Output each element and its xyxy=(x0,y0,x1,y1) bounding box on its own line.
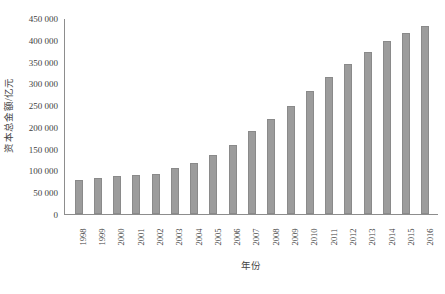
bar-slot xyxy=(397,19,416,214)
bar xyxy=(152,174,160,215)
x-tick-slot: 2007 xyxy=(242,216,261,258)
y-axis-tick-label: 250 000 xyxy=(29,101,58,111)
x-tick-slot: 1998 xyxy=(68,216,87,258)
x-tick-slot: 2001 xyxy=(126,216,145,258)
bar xyxy=(132,175,140,214)
x-tick-slot: 2010 xyxy=(300,216,319,258)
bar-slot xyxy=(319,19,338,214)
x-tick-slot: 2008 xyxy=(261,216,280,258)
bar xyxy=(209,155,217,214)
bar-slot xyxy=(300,19,319,214)
x-axis-tick-label: 2004 xyxy=(194,229,204,246)
bar-chart-figure: 资本总金额/亿元 050 000100 000150 000200 000250… xyxy=(0,0,445,294)
bar-slot xyxy=(223,19,242,214)
x-tick-slot: 2014 xyxy=(377,216,396,258)
bar xyxy=(402,33,410,214)
x-tick-slot: 2013 xyxy=(358,216,377,258)
bar-slot xyxy=(416,19,435,214)
bar-slot xyxy=(127,19,146,214)
y-axis-tick-label: 150 000 xyxy=(29,145,58,155)
x-axis-tick-label: 2000 xyxy=(116,229,126,246)
bar-series xyxy=(65,19,438,214)
x-axis-tick-label: 2010 xyxy=(309,229,319,246)
x-tick-slot: 2009 xyxy=(280,216,299,258)
y-axis-tick-label: 450 000 xyxy=(29,14,58,24)
x-axis-tick-label: 2001 xyxy=(136,229,146,246)
y-axis-title-text: 资本总金额/亿元 xyxy=(1,77,15,152)
x-axis-tick-label: 2005 xyxy=(213,229,223,246)
bar-slot xyxy=(146,19,165,214)
x-axis-tick-label: 2008 xyxy=(271,229,281,246)
x-axis-tick-label: 2014 xyxy=(387,229,397,246)
bar xyxy=(113,176,121,214)
bar-slot xyxy=(69,19,88,214)
bar-slot xyxy=(339,19,358,214)
x-tick-slot: 2015 xyxy=(396,216,415,258)
y-axis-tick-labels: 050 000100 000150 000200 000250 000300 0… xyxy=(14,19,61,215)
x-tick-slot: 2005 xyxy=(203,216,222,258)
x-axis-tick-label: 2002 xyxy=(155,229,165,246)
bar-slot xyxy=(165,19,184,214)
plot-area xyxy=(64,19,438,215)
x-axis-tick-label: 2006 xyxy=(232,229,242,246)
x-tick-slot: 1999 xyxy=(87,216,106,258)
bar-slot xyxy=(358,19,377,214)
bar-slot xyxy=(185,19,204,214)
x-axis-tick-label: 2011 xyxy=(329,229,339,246)
x-axis-tick-label: 2009 xyxy=(290,229,300,246)
x-tick-slot: 2000 xyxy=(107,216,126,258)
y-axis-tick-label: 300 000 xyxy=(29,79,58,89)
bar xyxy=(190,163,198,214)
bar xyxy=(248,131,256,214)
bar-slot xyxy=(108,19,127,214)
x-axis-tick-label: 2013 xyxy=(367,229,377,246)
bar-slot xyxy=(262,19,281,214)
bar-slot xyxy=(88,19,107,214)
x-axis-tick-label: 2012 xyxy=(348,229,358,246)
bar xyxy=(344,64,352,214)
x-tick-slot: 2002 xyxy=(145,216,164,258)
x-axis-title: 年份 xyxy=(64,258,438,272)
bar xyxy=(75,180,83,214)
x-axis-tick-label: 1999 xyxy=(97,229,107,246)
x-tick-slot: 2006 xyxy=(223,216,242,258)
bar xyxy=(306,91,314,214)
x-axis-tick-label: 2016 xyxy=(425,229,435,246)
bar-slot xyxy=(204,19,223,214)
bar xyxy=(267,119,275,214)
bar xyxy=(229,145,237,214)
x-tick-slot: 2012 xyxy=(338,216,357,258)
x-axis-tick-label: 2015 xyxy=(406,229,416,246)
x-axis-tick-label: 1998 xyxy=(78,229,88,246)
bar xyxy=(383,41,391,214)
x-axis-tick-label: 2007 xyxy=(251,229,261,246)
y-axis-tick-label: 0 xyxy=(54,210,59,220)
x-tick-slot: 2016 xyxy=(416,216,435,258)
bar xyxy=(325,77,333,214)
x-axis-tick-label: 2003 xyxy=(174,229,184,246)
bar xyxy=(287,106,295,214)
x-tick-slot: 2003 xyxy=(165,216,184,258)
x-axis-tick-labels: 1998199920002001200220032004200520062007… xyxy=(64,216,438,258)
bar xyxy=(94,178,102,214)
figure-caption xyxy=(0,286,445,294)
y-axis-tick-label: 50 000 xyxy=(33,188,58,198)
bar-slot xyxy=(377,19,396,214)
bar xyxy=(421,26,429,214)
bar xyxy=(171,168,179,214)
bar-slot xyxy=(242,19,261,214)
y-axis-tick-label: 400 000 xyxy=(29,36,58,46)
x-tick-slot: 2011 xyxy=(319,216,338,258)
y-axis-tick-label: 350 000 xyxy=(29,58,58,68)
bar xyxy=(364,52,372,214)
bar-slot xyxy=(281,19,300,214)
x-tick-slot: 2004 xyxy=(184,216,203,258)
y-axis-tick-label: 100 000 xyxy=(29,166,58,176)
y-axis-tick-label: 200 000 xyxy=(29,123,58,133)
